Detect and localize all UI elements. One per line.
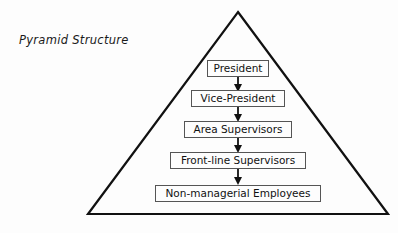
- level-label-non-managerial-employees: Non-managerial Employees: [160, 186, 316, 201]
- connector-vice-president-to-area-supervisors: [234, 107, 242, 122]
- pyramid-structure-diagram: Pyramid Structure President Vice-Preside…: [0, 0, 398, 233]
- level-box-area-supervisors[interactable]: Area Supervisors: [184, 121, 292, 138]
- level-box-front-line-supervisors[interactable]: Front-line Supervisors: [170, 152, 306, 169]
- level-label-vice-president: Vice-President: [196, 91, 280, 106]
- connector-area-supervisors-to-front-line-supervisors: [234, 138, 242, 153]
- level-box-non-managerial-employees[interactable]: Non-managerial Employees: [155, 185, 321, 202]
- connector-front-line-supervisors-to-non-managerial-employees: [234, 169, 242, 185]
- level-label-president: President: [212, 61, 264, 76]
- level-label-area-supervisors: Area Supervisors: [189, 122, 287, 137]
- level-box-vice-president[interactable]: Vice-President: [191, 90, 285, 107]
- level-label-front-line-supervisors: Front-line Supervisors: [175, 153, 301, 168]
- level-box-president[interactable]: President: [207, 60, 269, 77]
- diagram-title: Pyramid Structure: [19, 33, 129, 47]
